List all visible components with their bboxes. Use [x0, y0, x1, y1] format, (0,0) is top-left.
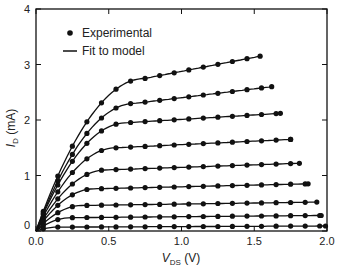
data-point — [201, 214, 206, 219]
data-point — [157, 185, 162, 190]
data-point — [186, 116, 191, 121]
data-point — [113, 105, 118, 110]
x-tick-label: 0.0 — [28, 235, 43, 247]
data-point — [70, 144, 75, 149]
data-point — [99, 100, 104, 105]
data-point — [274, 224, 279, 229]
data-point — [128, 120, 133, 125]
data-point — [157, 98, 162, 103]
data-point — [70, 181, 75, 186]
data-point — [172, 96, 177, 101]
data-point — [99, 186, 104, 191]
data-point — [70, 152, 75, 157]
data-point — [215, 183, 220, 188]
fit-curve — [36, 87, 272, 231]
axis-ticks: 0.00.51.01.52.001234 — [24, 3, 335, 247]
data-point — [84, 131, 89, 136]
data-point — [259, 85, 264, 90]
data-point — [113, 224, 118, 229]
data-point — [186, 142, 191, 147]
data-point — [128, 101, 133, 106]
data-point — [172, 165, 177, 170]
data-point — [244, 113, 249, 118]
data-point — [215, 164, 220, 169]
data-point — [230, 59, 235, 64]
fit-curve — [36, 226, 326, 231]
legend-experimental: Experimental — [82, 26, 152, 40]
data-point — [172, 224, 177, 229]
data-point — [84, 172, 89, 177]
data-point — [143, 144, 148, 149]
y-axis-label: ID (mA) — [4, 109, 20, 147]
data-point — [244, 56, 249, 61]
data-point — [128, 185, 133, 190]
data-point — [186, 165, 191, 170]
data-point — [55, 189, 60, 194]
data-point — [201, 141, 206, 146]
data-point — [230, 214, 235, 219]
y-tick-label: 1 — [24, 170, 30, 182]
data-point — [186, 184, 191, 189]
data-point — [128, 79, 133, 84]
data-point — [319, 213, 324, 218]
data-point — [317, 223, 322, 228]
data-point — [201, 65, 206, 70]
y-tick-label: 0 — [24, 219, 30, 231]
data-point — [201, 116, 206, 121]
curves — [36, 54, 328, 232]
data-point — [172, 70, 177, 75]
data-point — [259, 162, 264, 167]
data-point — [303, 224, 308, 229]
data-point — [128, 145, 133, 150]
legend-fit: Fit to model — [82, 44, 145, 58]
data-point — [215, 224, 220, 229]
data-point — [143, 224, 148, 229]
data-point — [70, 192, 75, 197]
data-point — [84, 119, 89, 124]
data-point — [274, 182, 279, 187]
data-point — [215, 115, 220, 120]
legend: Experimental Fit to model — [63, 26, 152, 58]
data-point — [128, 215, 133, 220]
data-point — [70, 204, 75, 209]
data-point — [274, 162, 279, 167]
data-point — [157, 118, 162, 123]
data-point — [55, 225, 60, 230]
y-tick-label: 3 — [24, 59, 30, 71]
chart: 0.00.51.01.52.001234 Experimental Fit to… — [0, 0, 342, 269]
data-point — [230, 163, 235, 168]
data-point — [297, 161, 302, 166]
data-point — [55, 203, 60, 208]
data-point — [70, 215, 75, 220]
data-point — [259, 138, 264, 143]
data-point — [70, 225, 75, 230]
data-point — [143, 100, 148, 105]
data-point — [230, 89, 235, 94]
y-tick-label: 4 — [24, 3, 30, 15]
data-point — [84, 156, 89, 161]
data-point — [172, 142, 177, 147]
data-point — [99, 224, 104, 229]
data-point — [84, 141, 89, 146]
data-point — [172, 184, 177, 189]
data-point — [143, 202, 148, 207]
data-point — [201, 164, 206, 169]
data-point — [259, 112, 264, 117]
data-point — [186, 224, 191, 229]
data-point — [244, 163, 249, 168]
data-point — [186, 67, 191, 72]
data-point — [288, 224, 293, 229]
data-point — [288, 137, 293, 142]
data-point — [113, 167, 118, 172]
data-point — [288, 213, 293, 218]
data-point — [113, 215, 118, 220]
data-point — [201, 201, 206, 206]
data-point — [113, 122, 118, 127]
data-point — [201, 92, 206, 97]
x-tick-label: 1.0 — [174, 235, 189, 247]
data-point — [99, 215, 104, 220]
data-point — [84, 224, 89, 229]
data-point — [143, 214, 148, 219]
data-point — [259, 182, 264, 187]
data-point — [113, 145, 118, 150]
